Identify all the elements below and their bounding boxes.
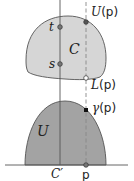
label-s: s (49, 57, 55, 71)
label-gamma: γ(p) (92, 101, 116, 115)
point-s (58, 62, 63, 67)
label-t: t (49, 20, 54, 34)
label-p: p (82, 168, 90, 181)
point-lower-bound (84, 76, 89, 81)
region-c (26, 16, 106, 80)
diagram-canvas: t s C U U(p) L(p) γ(p) C′ p (0, 0, 134, 181)
point-upper-bound (84, 20, 89, 25)
label-lower-bound: L(p) (90, 78, 116, 92)
point-gamma (84, 108, 88, 112)
point-t (58, 25, 63, 30)
point-p (84, 163, 89, 168)
label-u: U (37, 123, 50, 139)
label-upper-bound: U(p) (91, 5, 118, 19)
label-c-prime: C′ (51, 167, 63, 181)
label-c: C (69, 41, 80, 57)
